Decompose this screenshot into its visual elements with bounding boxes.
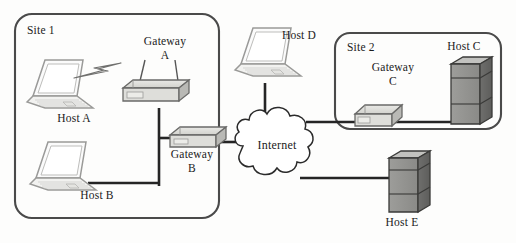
gateway-c-device	[355, 105, 402, 126]
site-2-label: Site 2	[347, 41, 375, 53]
gateway-b-device	[170, 127, 226, 147]
gateway-c-sublabel: C	[389, 75, 397, 87]
host-e-label: Host E	[386, 216, 419, 228]
site-1-label: Site 1	[27, 24, 55, 36]
host-c-server	[451, 57, 492, 124]
gateway-a-sublabel: A	[161, 49, 170, 61]
gateway-b-sublabel: B	[188, 162, 196, 174]
network-diagram: Site 1 Site 2 Internet Host A Host B Hos…	[0, 0, 516, 243]
internet-cloud-label: Internet	[258, 138, 297, 153]
host-a-label: Host A	[57, 112, 90, 124]
host-d-label: Host D	[282, 29, 316, 41]
gateway-a-device	[123, 60, 189, 101]
host-b-label: Host B	[80, 189, 113, 201]
gateway-c-label: Gateway	[372, 61, 414, 73]
host-b-laptop	[30, 142, 96, 190]
host-c-label: Host C	[447, 40, 480, 52]
host-a-laptop	[27, 60, 93, 108]
gateway-b-label: Gateway	[171, 148, 213, 160]
host-e-server	[389, 151, 430, 212]
gateway-a-label: Gateway	[144, 35, 186, 47]
